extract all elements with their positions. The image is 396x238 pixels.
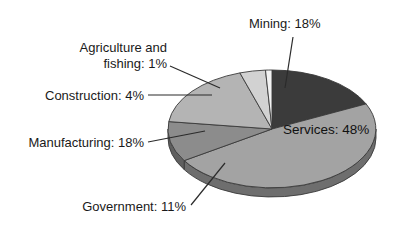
pie-chart-svg: Mining: 18% Agriculture and fishing: 1% … (0, 0, 396, 238)
label-government: Government: 11% (82, 199, 186, 214)
label-construction: Construction: 4% (45, 88, 144, 103)
label-agriculture-line2: fishing: 1% (103, 56, 167, 71)
label-mining: Mining: 18% (249, 16, 321, 31)
label-services: Services: 48% (283, 122, 369, 137)
label-manufacturing: Manufacturing: 18% (28, 135, 144, 150)
pie-chart-figure: Mining: 18% Agriculture and fishing: 1% … (0, 0, 396, 238)
leader-line-agriculture (170, 66, 220, 88)
label-agriculture-line1: Agriculture and (80, 40, 167, 55)
